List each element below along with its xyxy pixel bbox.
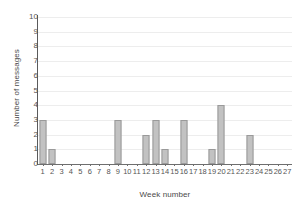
bar-week-2: [49, 149, 56, 164]
y-tick-label-0: 0: [8, 160, 38, 168]
x-tick-label-8: 8: [104, 167, 113, 177]
x-tick-label-6: 6: [85, 167, 94, 177]
x-tick-mark-14: [165, 164, 166, 166]
plot-area: [38, 17, 292, 164]
x-tick-label-19: 19: [207, 167, 216, 177]
bar-slot-week-10: [123, 17, 132, 164]
bar-week-14: [161, 149, 168, 164]
x-tick-label-4: 4: [66, 167, 75, 177]
x-tick-mark-9: [118, 164, 119, 166]
bar-slot-week-6: [85, 17, 94, 164]
y-tick-label-4: 4: [8, 101, 38, 109]
x-tick-label-16: 16: [179, 167, 188, 177]
x-tick-mark-18: [203, 164, 204, 166]
x-tick-label-15: 15: [170, 167, 179, 177]
bar-week-13: [152, 120, 159, 164]
x-tick-label-27: 27: [283, 167, 292, 177]
x-tick-label-11: 11: [132, 167, 141, 177]
x-tick-label-7: 7: [94, 167, 103, 177]
x-tick-label-1: 1: [38, 167, 47, 177]
y-tick-label-8: 8: [8, 42, 38, 50]
x-tick-mark-11: [137, 164, 138, 166]
bar-week-12: [143, 135, 150, 164]
bar-slot-week-5: [76, 17, 85, 164]
bar-slot-week-9: [113, 17, 122, 164]
bar-slot-week-3: [57, 17, 66, 164]
x-tick-label-13: 13: [151, 167, 160, 177]
x-tick-mark-24: [259, 164, 260, 166]
y-tick-label-2: 2: [8, 131, 38, 139]
bar-slot-week-18: [198, 17, 207, 164]
bar-week-20: [218, 105, 225, 164]
x-tick-label-25: 25: [264, 167, 273, 177]
x-tick-mark-12: [146, 164, 147, 166]
y-tick-label-9: 9: [8, 28, 38, 36]
x-tick-label-3: 3: [57, 167, 66, 177]
bar-slot-week-26: [273, 17, 282, 164]
x-tick-mark-16: [184, 164, 185, 166]
x-tick-label-18: 18: [198, 167, 207, 177]
x-tick-label-26: 26: [273, 167, 282, 177]
x-tick-label-2: 2: [47, 167, 56, 177]
bar-slot-week-25: [264, 17, 273, 164]
bar-slot-week-12: [141, 17, 150, 164]
y-tick-label-1: 1: [8, 145, 38, 153]
x-tick-mark-8: [109, 164, 110, 166]
x-tick-mark-19: [212, 164, 213, 166]
x-tick-label-20: 20: [217, 167, 226, 177]
bar-slot-week-8: [104, 17, 113, 164]
x-tick-mark-25: [268, 164, 269, 166]
x-tick-mark-4: [71, 164, 72, 166]
x-tick-mark-27: [287, 164, 288, 166]
x-tick-label-24: 24: [254, 167, 263, 177]
bar-slot-week-13: [151, 17, 160, 164]
bar-slot-week-11: [132, 17, 141, 164]
bar-slot-week-23: [245, 17, 254, 164]
x-tick-label-21: 21: [226, 167, 235, 177]
x-tick-mark-5: [80, 164, 81, 166]
x-tick-mark-21: [231, 164, 232, 166]
bar-slot-week-24: [254, 17, 263, 164]
bar-slot-week-15: [170, 17, 179, 164]
bar-slot-week-2: [47, 17, 56, 164]
x-tick-label-17: 17: [189, 167, 198, 177]
bar-slot-week-1: [38, 17, 47, 164]
x-tick-label-9: 9: [113, 167, 122, 177]
x-tick-mark-23: [250, 164, 251, 166]
x-tick-mark-22: [240, 164, 241, 166]
x-tick-mark-10: [127, 164, 128, 166]
bar-slot-week-16: [179, 17, 188, 164]
bar-slot-week-7: [94, 17, 103, 164]
x-tick-label-12: 12: [141, 167, 150, 177]
x-axis-tick-labels: 1234567891011121314151617181920212223242…: [38, 167, 292, 179]
x-tick-mark-1: [43, 164, 44, 166]
x-tick-mark-17: [193, 164, 194, 166]
x-tick-label-14: 14: [160, 167, 169, 177]
x-tick-mark-6: [90, 164, 91, 166]
x-tick-mark-15: [174, 164, 175, 166]
bar-chart: Number of messages 012345678910 12345678…: [0, 0, 304, 210]
bar-week-23: [246, 135, 253, 164]
bar-slot-week-14: [160, 17, 169, 164]
bar-slot-week-22: [236, 17, 245, 164]
x-axis-title: Week number: [38, 190, 292, 199]
x-tick-label-10: 10: [123, 167, 132, 177]
y-tick-label-3: 3: [8, 116, 38, 124]
bar-slot-week-27: [283, 17, 292, 164]
bar-slot-week-21: [226, 17, 235, 164]
bar-week-16: [180, 120, 187, 164]
y-tick-label-10: 10: [8, 13, 38, 21]
bar-slot-week-19: [207, 17, 216, 164]
x-tick-mark-2: [52, 164, 53, 166]
x-tick-mark-7: [99, 164, 100, 166]
bar-week-1: [39, 120, 46, 164]
x-tick-mark-26: [278, 164, 279, 166]
x-tick-label-22: 22: [236, 167, 245, 177]
y-tick-label-7: 7: [8, 57, 38, 65]
x-tick-label-5: 5: [76, 167, 85, 177]
x-tick-mark-3: [62, 164, 63, 166]
bar-slot-week-17: [189, 17, 198, 164]
bar-week-19: [209, 149, 216, 164]
bar-week-9: [114, 120, 121, 164]
x-tick-label-23: 23: [245, 167, 254, 177]
